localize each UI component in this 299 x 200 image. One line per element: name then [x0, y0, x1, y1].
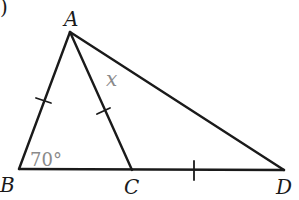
- geometry-diagram: ) A B C D x 70°: [0, 0, 299, 200]
- part-marker: ): [0, 0, 8, 19]
- vertex-label-a: A: [62, 7, 78, 31]
- vertex-label-d: D: [275, 175, 292, 199]
- angle-label-b: 70°: [30, 149, 62, 170]
- vertex-label-b: B: [0, 173, 15, 197]
- unknown-angle-label: x: [106, 67, 117, 91]
- vertex-label-c: C: [124, 175, 139, 199]
